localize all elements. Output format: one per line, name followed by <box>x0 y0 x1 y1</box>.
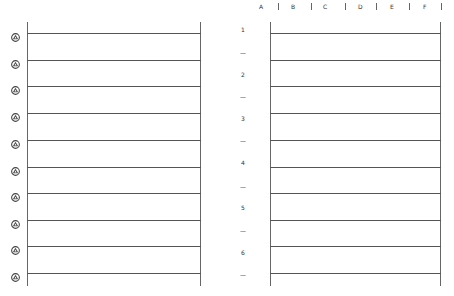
rotate-handle-icon[interactable] <box>11 215 20 224</box>
row-number: 1 <box>233 26 253 34</box>
left-row-line <box>27 193 201 194</box>
left-row-line <box>27 140 201 141</box>
rotate-handle-icon[interactable] <box>11 55 20 64</box>
left-row-line <box>27 33 201 34</box>
row-divider-mark: — <box>233 93 253 101</box>
row-divider-mark: — <box>233 271 253 279</box>
right-row-line <box>270 273 441 274</box>
left-row-line <box>27 220 201 221</box>
right-row-line <box>270 220 441 221</box>
rotate-handle-icon[interactable] <box>11 162 20 171</box>
right-row-line <box>270 246 441 247</box>
column-header-a: A <box>259 2 263 12</box>
row-number: 4 <box>233 159 253 167</box>
rotate-handle-icon[interactable] <box>11 28 20 37</box>
left-row-line <box>27 86 201 87</box>
left-row-line <box>27 60 201 61</box>
column-separator <box>278 3 279 10</box>
rotate-handle-icon[interactable] <box>11 241 20 250</box>
row-divider-mark: — <box>233 227 253 235</box>
column-header-e: E <box>390 2 394 12</box>
column-header-f: F <box>423 2 426 12</box>
rotate-handle-icon[interactable] <box>11 268 20 277</box>
column-separator <box>441 3 442 10</box>
column-separator <box>376 3 377 10</box>
right-row-line <box>270 86 441 87</box>
right-row-line <box>270 193 441 194</box>
row-number: 3 <box>233 115 253 123</box>
rotate-handle-icon[interactable] <box>11 108 20 117</box>
right-row-line <box>270 60 441 61</box>
left-row-line <box>27 273 201 274</box>
column-separator <box>311 3 312 10</box>
right-row-line <box>270 140 441 141</box>
left-row-line <box>27 246 201 247</box>
rotate-handle-icon[interactable] <box>11 81 20 90</box>
column-header-d: D <box>358 2 363 12</box>
right-row-line <box>270 167 441 168</box>
column-header-c: C <box>323 2 327 12</box>
left-row-line <box>27 167 201 168</box>
right-row-line <box>270 33 441 34</box>
row-number: 6 <box>233 249 253 257</box>
row-number: 2 <box>233 71 253 79</box>
row-divider-mark: — <box>233 49 253 57</box>
rotate-handle-icon[interactable] <box>11 188 20 197</box>
right-row-line <box>270 113 441 114</box>
row-divider-mark: — <box>233 183 253 191</box>
column-header-b: B <box>291 2 295 12</box>
row-number: 5 <box>233 204 253 212</box>
column-separator <box>345 3 346 10</box>
row-divider-mark: — <box>233 137 253 145</box>
rotate-handle-icon[interactable] <box>11 135 20 144</box>
column-separator <box>409 3 410 10</box>
left-row-line <box>27 113 201 114</box>
